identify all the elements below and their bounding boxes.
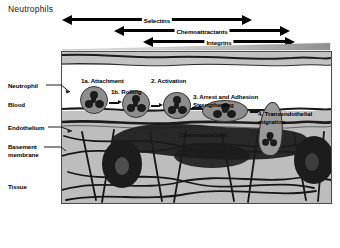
step-label-1b: 1b. Rolling bbox=[111, 88, 142, 96]
step-label-1a: 1a. Attachment bbox=[81, 77, 124, 85]
nucleus-bridge bbox=[174, 102, 179, 109]
step-text: 2. Activation bbox=[151, 77, 186, 84]
step-text: 3. Arrest and Adhesion bbox=[193, 93, 258, 100]
figure-canvas: Neutrophils Selectins Chemoattractants I… bbox=[0, 0, 340, 248]
step-label-3: 3. Arrest and Adhesion Strengthening bbox=[193, 93, 258, 109]
flow-arrow-1 bbox=[109, 101, 122, 105]
step-label-2: 2. Activation bbox=[151, 77, 186, 85]
arrow-head-icon bbox=[118, 100, 122, 104]
nucleus-lobe bbox=[95, 100, 104, 108]
nucleus-bridge bbox=[91, 96, 96, 103]
arrow-head-icon bbox=[159, 103, 163, 107]
step-label-4: 4. Transendothelial migration bbox=[258, 110, 312, 126]
step-text-2: migration bbox=[258, 118, 285, 125]
step-text: 1a. Attachment bbox=[81, 77, 124, 84]
tissue-dark-mass bbox=[62, 52, 331, 203]
step-text: 1b. Rolling bbox=[111, 88, 142, 95]
nucleus-lobe bbox=[227, 110, 236, 118]
neutrophil-attachment bbox=[80, 86, 108, 114]
annotation-chemoattractant: Chemoattractant bbox=[179, 131, 227, 138]
neutrophil-activation bbox=[163, 92, 191, 119]
diagram-frame: 1a. Attachment 1b. Rolling 2. Activation… bbox=[61, 51, 332, 204]
nucleus-lobe bbox=[213, 110, 222, 118]
flow-arrow-2 bbox=[151, 104, 163, 108]
nucleus-bridge bbox=[133, 100, 138, 107]
nucleus-lobe bbox=[137, 104, 146, 112]
step-text-2: Strengthening bbox=[193, 101, 234, 108]
step-text: 4. Transendothelial bbox=[258, 110, 312, 117]
nucleus-lobe bbox=[178, 106, 187, 114]
